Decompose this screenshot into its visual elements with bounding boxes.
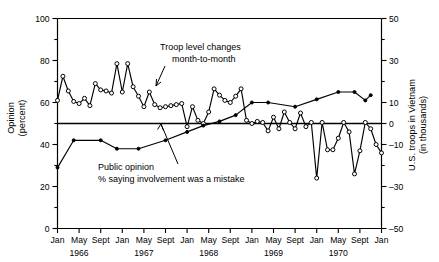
data-point-open [174, 103, 178, 107]
x-axis-month-label: May [330, 235, 347, 245]
data-point-open [164, 105, 168, 109]
data-point-open [239, 87, 243, 91]
data-point-open [185, 125, 189, 129]
left-axis-tick-label: 20 [40, 182, 50, 192]
data-point-filled [369, 94, 372, 97]
data-point-open [61, 74, 65, 78]
data-point-open [336, 136, 340, 140]
data-point-open [320, 120, 324, 124]
left-axis-tick-label: 60 [40, 98, 50, 108]
data-point-open [137, 94, 141, 98]
data-point-filled [99, 139, 102, 142]
right-axis-tick-label: 10 [389, 98, 399, 108]
right-axis-title-line2: (in thousands) [418, 96, 428, 154]
data-point-open [180, 102, 184, 106]
data-point-open [261, 120, 265, 124]
data-point-open [250, 122, 254, 126]
x-axis-year-label: 1966 [70, 248, 89, 258]
opinion-annotation-line1: Public opinion [98, 162, 154, 172]
left-axis-tick-label: 0 [45, 224, 50, 234]
data-point-filled [56, 166, 59, 169]
data-point-open [277, 127, 281, 131]
data-point-open [72, 99, 76, 103]
x-axis-year-label: 1967 [134, 248, 153, 258]
right-axis-tick-label: 30 [389, 56, 399, 66]
x-axis-month-label: Jan [245, 235, 259, 245]
left-axis-title-line1: Opinion [6, 102, 16, 134]
x-axis-month-label: Jan [180, 235, 194, 245]
data-point-open [282, 110, 286, 114]
data-point-open [342, 120, 346, 124]
data-point-filled [218, 120, 221, 123]
data-point-filled [186, 130, 189, 133]
data-point-open [147, 90, 151, 94]
data-point-filled [315, 98, 318, 101]
data-point-open [374, 143, 378, 147]
data-point-open [207, 110, 211, 114]
data-point-open [196, 118, 200, 122]
x-axis-month-label: Sept [351, 235, 369, 245]
troop-annotation-line2: month-to-month [172, 54, 236, 64]
data-point-filled [353, 91, 356, 94]
x-axis-month-label: Jan [51, 235, 65, 245]
data-point-open [131, 85, 135, 89]
data-point-open [212, 87, 216, 91]
opinion-troops-dual-axis-chart: 020406080100 –50–30–100103050 JanMaySept… [0, 0, 439, 262]
right-axis-tick-label: –30 [389, 182, 404, 192]
data-point-filled [337, 91, 340, 94]
data-point-filled [267, 101, 270, 104]
data-point-open [110, 91, 114, 95]
left-axis-tick-label: 100 [35, 14, 50, 24]
x-axis-month-label: May [71, 235, 88, 245]
x-axis-year-label: 1970 [329, 248, 348, 258]
data-point-open [299, 111, 303, 115]
data-point-open [153, 103, 157, 107]
data-point-filled [137, 147, 140, 150]
data-point-open [218, 93, 222, 97]
chart-figure: 020406080100 –50–30–100103050 JanMaySept… [0, 0, 439, 262]
x-axis-month-label: Sept [157, 235, 175, 245]
data-point-open [315, 176, 319, 180]
data-point-open [169, 104, 173, 108]
data-point-open [77, 102, 81, 106]
data-point-open [363, 120, 367, 124]
data-point-filled [202, 124, 205, 127]
data-point-open [142, 105, 146, 109]
data-point-open [115, 62, 119, 66]
right-axis-title-line1: U.S. troops in Vietnam [407, 79, 417, 171]
x-axis-month-label: Sept [221, 235, 239, 245]
data-point-filled [72, 139, 75, 142]
x-axis-month-label: Jan [115, 235, 129, 245]
data-point-open [288, 120, 292, 124]
data-point-open [158, 106, 162, 110]
x-axis-year-label: 1969 [264, 248, 283, 258]
data-point-open [234, 94, 238, 98]
data-point-open [255, 119, 259, 123]
data-point-open [293, 127, 297, 131]
data-point-open [66, 89, 70, 93]
x-axis-month-label: Sept [92, 235, 110, 245]
data-point-open [120, 90, 124, 94]
data-point-open [228, 101, 232, 105]
data-point-open [304, 125, 308, 129]
data-point-open [353, 172, 357, 176]
data-point-open [223, 98, 227, 102]
data-point-open [369, 127, 373, 131]
data-point-open [191, 105, 195, 109]
data-point-open [245, 118, 249, 122]
data-point-open [104, 89, 108, 93]
chart-background [0, 0, 439, 262]
left-axis-tick-label: 80 [40, 56, 50, 66]
x-axis-month-label: May [136, 235, 153, 245]
data-point-open [358, 149, 362, 153]
data-point-filled [364, 99, 367, 102]
left-axis-tick-label: 40 [40, 140, 50, 150]
right-axis-tick-label: –50 [389, 224, 404, 234]
data-point-filled [250, 101, 253, 104]
right-axis-tick-label: 50 [389, 14, 399, 24]
x-axis-month-label: Jan [310, 235, 324, 245]
left-axis-title-line2: (percent) [17, 100, 27, 137]
data-point-open [126, 62, 130, 66]
data-point-open [266, 129, 270, 133]
x-axis-month-label: Sept [286, 235, 304, 245]
